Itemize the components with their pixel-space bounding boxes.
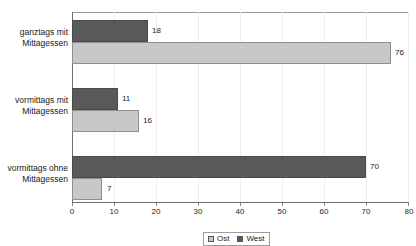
xtick-50 <box>282 203 283 206</box>
bar-value-76: 76 <box>395 48 404 57</box>
xtick-label-40: 40 <box>236 207 245 216</box>
bar-chart: 0 10 20 30 40 50 60 70 80 ganztags mit M… <box>0 0 416 246</box>
xtick-label-80: 80 <box>405 207 414 216</box>
category-label-line1: vormittags mit <box>0 95 68 106</box>
xtick-70 <box>366 203 367 206</box>
category-label-vormittags-mit: vormittags mit Mittagessen <box>0 95 68 117</box>
xtick-label-20: 20 <box>152 207 161 216</box>
category-label-line2: Mittagessen <box>0 106 68 117</box>
bar-ost-ganztags <box>72 42 391 64</box>
bar-value-16: 16 <box>143 116 152 125</box>
bar-value-11: 11 <box>122 94 130 103</box>
category-label-line1: vormittags ohne <box>0 163 68 174</box>
xtick-60 <box>324 203 325 206</box>
legend-label-west: West <box>246 234 264 243</box>
legend-swatch-ost-icon <box>208 236 214 242</box>
bar-west-vormittags-mit <box>72 88 118 110</box>
legend-label-ost: Ost <box>217 234 229 243</box>
bar-ost-vormittags-mit <box>72 110 139 132</box>
chart-legend: Ost West <box>203 232 270 246</box>
xtick-label-50: 50 <box>278 207 287 216</box>
legend-swatch-west-icon <box>237 236 243 242</box>
xtick-10 <box>114 203 115 206</box>
xtick-label-60: 60 <box>320 207 329 216</box>
bar-value-18: 18 <box>152 26 161 35</box>
category-label-line2: Mittagessen <box>0 174 68 185</box>
legend-item-ost: Ost <box>208 234 229 243</box>
gridline-80 <box>408 12 409 202</box>
gridline-70 <box>366 12 367 202</box>
category-label-ganztags: ganztags mit Mittagessen <box>0 27 68 49</box>
xtick-20 <box>156 203 157 206</box>
bar-ost-vormittags-ohne <box>72 178 102 200</box>
xtick-40 <box>240 203 241 206</box>
xtick-label-70: 70 <box>362 207 371 216</box>
xtick-30 <box>198 203 199 206</box>
bar-west-vormittags-ohne <box>72 156 366 178</box>
xtick-0 <box>72 203 73 206</box>
category-label-line2: Mittagessen <box>0 38 68 49</box>
bar-west-ganztags <box>72 20 148 42</box>
category-label-line1: ganztags mit <box>0 27 68 38</box>
xtick-label-10: 10 <box>110 207 119 216</box>
xtick-label-0: 0 <box>70 207 74 216</box>
xtick-80 <box>408 203 409 206</box>
xtick-label-30: 30 <box>194 207 203 216</box>
clipped-title <box>0 0 416 3</box>
bar-value-70: 70 <box>370 162 379 171</box>
category-label-vormittags-ohne: vormittags ohne Mittagessen <box>0 163 68 185</box>
legend-item-west: West <box>237 234 264 243</box>
bar-value-7: 7 <box>107 184 111 193</box>
